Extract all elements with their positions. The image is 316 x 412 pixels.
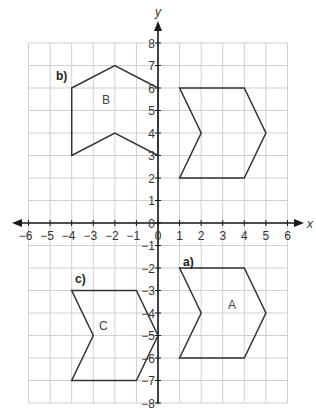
- x-tick-label: −1: [127, 229, 141, 243]
- y-tick-label: −8: [141, 397, 155, 411]
- y-tick-label: 4: [148, 127, 155, 141]
- coordinate-plane: −6−5−4−3−2−10123456876543210−1−2−3−4−5−6…: [0, 0, 316, 412]
- x-tick-label: 6: [284, 229, 291, 243]
- x-axis-label: x: [306, 217, 314, 231]
- x-tick-label: −2: [105, 229, 119, 243]
- y-tick-label: −4: [141, 307, 155, 321]
- y-tick-label: 8: [148, 37, 155, 51]
- x-tick-label: −5: [40, 229, 54, 243]
- x-tick-label: 1: [176, 229, 183, 243]
- y-tick-label: −3: [141, 284, 155, 298]
- y-tick-label: −2: [141, 262, 155, 276]
- y-tick-label: 0: [148, 217, 155, 231]
- x-axis-left-arrow-icon: [12, 219, 22, 227]
- y-axis-up-arrow-icon: [154, 21, 162, 31]
- y-axis-label: y: [154, 5, 162, 19]
- labels: x y b) c) a) B C A: [56, 5, 314, 333]
- x-tick-label: −6: [19, 229, 33, 243]
- y-tick-label: 2: [148, 172, 155, 186]
- y-tick-label: −6: [141, 352, 155, 366]
- part-label-b: b): [56, 69, 67, 83]
- y-tick-label: −7: [141, 374, 155, 388]
- y-tick-label: 7: [148, 59, 155, 73]
- y-tick-label: 1: [148, 194, 155, 208]
- x-tick-label: 0: [155, 229, 162, 243]
- y-tick-label: −1: [141, 239, 155, 253]
- y-tick-label: −5: [141, 329, 155, 343]
- x-tick-label: 4: [241, 229, 248, 243]
- x-tick-label: −4: [62, 229, 76, 243]
- coordinate-grid-figure: −6−5−4−3−2−10123456876543210−1−2−3−4−5−6…: [0, 0, 316, 412]
- x-tick-label: 3: [219, 229, 226, 243]
- shape-label-a: A: [228, 298, 236, 312]
- x-tick-label: −3: [83, 229, 97, 243]
- y-tick-label: 5: [148, 104, 155, 118]
- x-axis-right-arrow-icon: [294, 219, 304, 227]
- part-label-a: a): [183, 255, 194, 269]
- part-label-c: c): [75, 272, 86, 286]
- x-tick-label: 5: [263, 229, 270, 243]
- shape-label-c: C: [99, 319, 108, 333]
- shape-label-b: B: [102, 93, 110, 107]
- x-tick-label: 2: [198, 229, 205, 243]
